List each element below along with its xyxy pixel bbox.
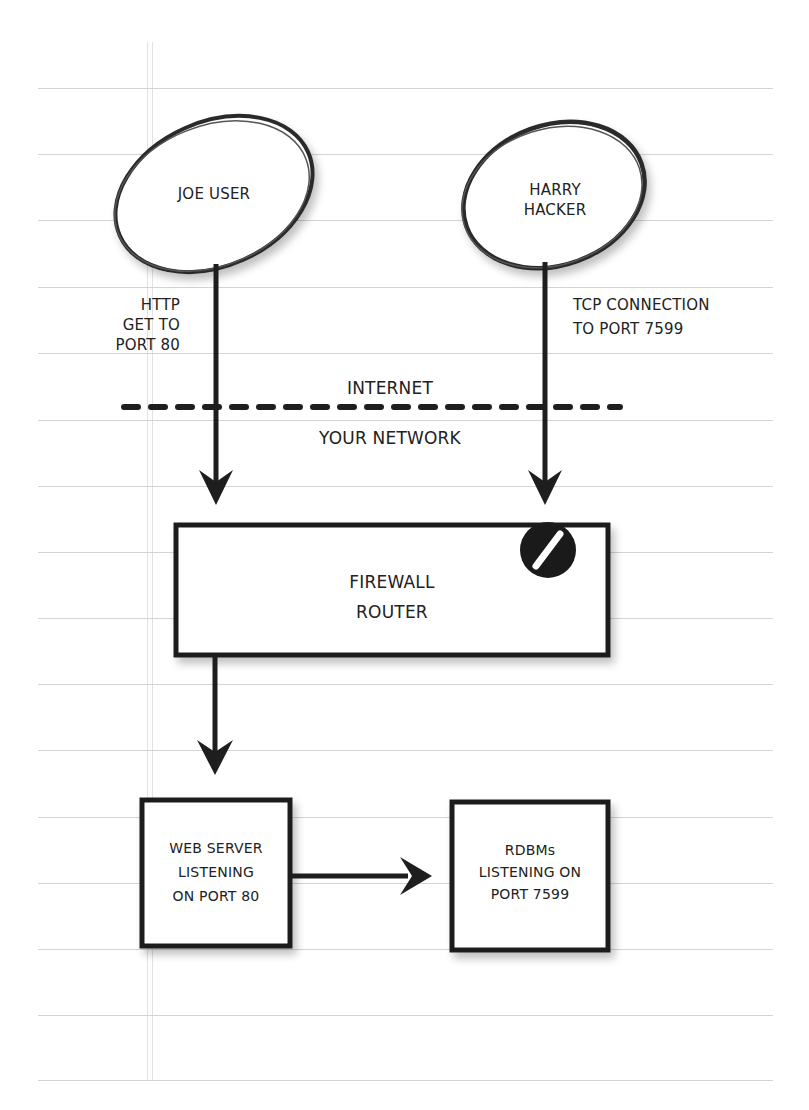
diagram-canvas [0, 0, 809, 1110]
http-label-line3: PORT 80 [100, 335, 180, 355]
tcp-label-line1: TCP CONNECTION [573, 295, 753, 315]
your-network-label: YOUR NETWORK [280, 427, 500, 449]
web-server-label-line1: WEB SERVER [142, 838, 290, 858]
harry-hacker-label-line1: HARRY [510, 180, 600, 200]
joe-user-label: JOE USER [164, 184, 264, 204]
firewall-label-line2: ROUTER [312, 601, 472, 623]
internet-label: INTERNET [300, 377, 480, 399]
firewall-label-line1: FIREWALL [312, 571, 472, 593]
rdbms-label-line2: LISTENING ON [452, 862, 608, 882]
arrow-joe-to-firewall [199, 264, 233, 505]
no-entry-icon [520, 522, 576, 578]
http-label-line2: GET TO [100, 315, 180, 335]
arrow-firewall-to-webserver [197, 655, 233, 775]
web-server-label-line2: LISTENING [142, 862, 290, 882]
tcp-label-line2: TO PORT 7599 [573, 319, 753, 339]
web-server-label-line3: ON PORT 80 [142, 886, 290, 906]
arrow-harry-to-firewall [528, 262, 562, 505]
rdbms-label-line1: RDBMs [452, 840, 608, 860]
http-label-line1: HTTP [100, 295, 180, 315]
harry-hacker-label-line2: HACKER [510, 200, 600, 220]
rdbms-label-line3: PORT 7599 [452, 884, 608, 904]
arrow-webserver-to-rdbms [290, 857, 432, 895]
